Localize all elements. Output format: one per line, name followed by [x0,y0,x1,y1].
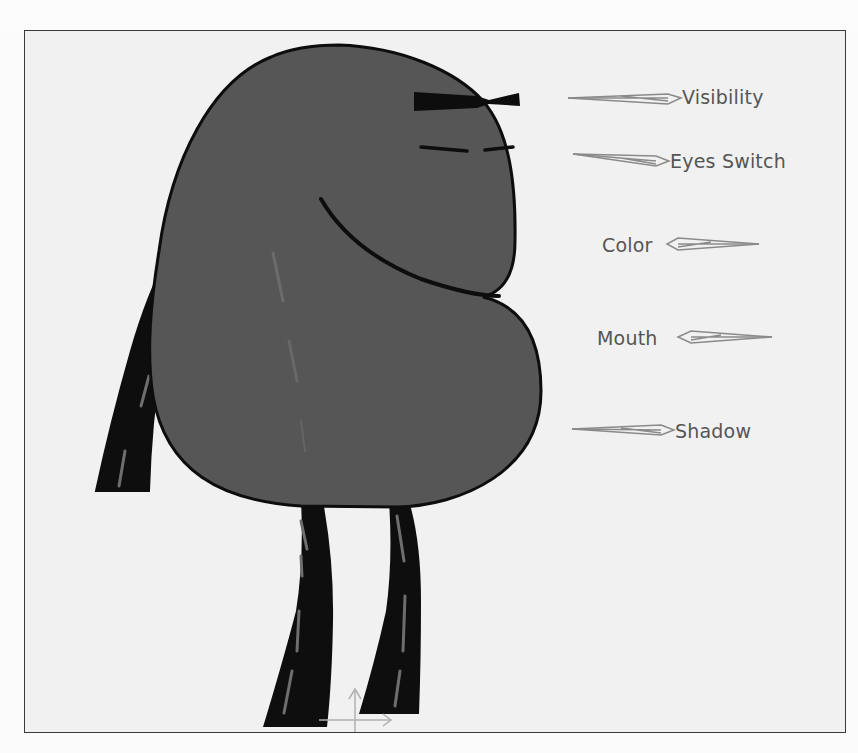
eyes-switch-label[interactable]: Eyes Switch [670,152,786,171]
visibility-label[interactable]: Visibility [682,88,764,107]
left-leg[interactable] [263,501,333,727]
mouth-arrow-icon[interactable] [678,331,772,343]
color-label[interactable]: Color [602,236,653,255]
shadow-label[interactable]: Shadow [675,422,751,441]
eyes-switch-arrow-icon[interactable] [573,154,669,166]
color-arrow-icon[interactable] [667,238,759,250]
visibility-arrow-icon[interactable] [568,94,681,104]
figure-frame: Visibility Eyes Switch Color Mouth Shado… [24,30,846,733]
mouth-label[interactable]: Mouth [597,329,658,348]
character-rig-illustration [25,31,846,733]
character-body[interactable] [150,45,541,507]
shadow-arrow-icon[interactable] [572,425,674,435]
right-leg[interactable] [359,501,421,714]
page-top-strip [0,0,858,30]
